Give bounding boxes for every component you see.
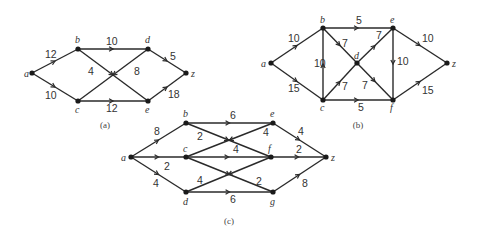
node-label: e: [270, 108, 275, 119]
node-a-z: [183, 70, 188, 75]
edge-weight-label: 10: [314, 57, 326, 69]
node-label: z: [330, 152, 335, 163]
edge-weight-label: 8: [302, 177, 308, 189]
edge-weight-label: 10: [288, 32, 300, 44]
node-a-b: [75, 46, 80, 51]
node-c-c: [183, 154, 188, 159]
edge-weight-label: 15: [288, 82, 300, 94]
node-b-d: [354, 60, 359, 65]
edge-weight-label: 10: [45, 89, 57, 101]
node-label: c: [183, 143, 188, 154]
node-b-b: [320, 25, 325, 30]
edge-weight-label: 2: [296, 143, 302, 155]
node-label: d: [183, 196, 189, 207]
node-c-z: [323, 154, 328, 159]
edge-weight-label: 8: [134, 65, 140, 77]
node-label: b: [75, 34, 80, 45]
node-label: a: [261, 58, 266, 69]
edge-weight-label: 4: [197, 174, 203, 186]
edge-weight-label: 5: [170, 50, 176, 62]
edge-weight-label: 5: [356, 14, 362, 26]
node-label: z: [190, 68, 195, 79]
node-b-a: [268, 60, 273, 65]
node-a-e: [145, 98, 150, 103]
node-b-z: [444, 60, 449, 65]
edge-weight-label: 4: [298, 125, 304, 137]
edge-weight-label: 6: [230, 193, 236, 205]
edge-weight-label: 15: [422, 84, 434, 96]
edge-weight-label: 10: [422, 32, 434, 44]
node-label: c: [75, 104, 80, 115]
edge-weight-label: 6: [230, 109, 236, 121]
figure-caption: (a): [100, 120, 110, 130]
node-a-a: [29, 70, 34, 75]
edge-weight-label: 18: [168, 88, 180, 100]
edge-weight-label: 5: [358, 101, 364, 113]
edge-weight-label: 7: [342, 80, 348, 92]
edge-weight-label: 4: [88, 65, 94, 77]
edge-weight-label: 7: [376, 29, 382, 41]
node-label: b: [183, 108, 188, 119]
edge-weight-label: 4: [263, 126, 269, 138]
node-a-c: [75, 98, 80, 103]
node-label: d: [354, 50, 360, 61]
edge-weight-label: 2: [256, 175, 262, 187]
node-label: e: [390, 14, 395, 25]
node-label: f: [268, 143, 272, 154]
edge-weight-label: 7: [362, 79, 368, 91]
edge-weight-label: 12: [106, 102, 118, 114]
edge-weight-label: 10: [397, 55, 409, 67]
node-b-e: [390, 25, 395, 30]
node-label: b: [320, 14, 325, 25]
edge-weight-label: 4: [153, 177, 159, 189]
edge-weight-label: 7: [342, 37, 348, 49]
edge-weight-label: 12: [45, 48, 57, 60]
node-label: g: [270, 196, 275, 207]
node-label: z: [451, 58, 456, 69]
edge-weight-label: 4: [233, 143, 239, 155]
edge-weight-label: 2: [164, 160, 170, 172]
node-label: c: [320, 102, 325, 113]
node-c-d: [183, 189, 188, 194]
labels-layer: 1210104128518abdcez(a)101557107775101015…: [24, 14, 456, 226]
figure-caption: (c): [224, 216, 234, 226]
edges-layer: [32, 26, 447, 194]
node-c-b: [183, 120, 188, 125]
node-a-d: [145, 46, 150, 51]
node-label: e: [145, 104, 150, 115]
node-c-a: [128, 154, 133, 159]
node-label: a: [121, 152, 126, 163]
edge-weight-label: 2: [197, 130, 203, 142]
node-c-e: [270, 120, 275, 125]
edge-weight-label: 8: [154, 125, 160, 137]
node-label: f: [390, 102, 394, 113]
figure-caption: (b): [353, 120, 364, 130]
network-flow-diagram: 1210104128518abdcez(a)101557107775101015…: [0, 0, 479, 232]
node-c-f: [268, 154, 273, 159]
node-label: a: [24, 68, 29, 79]
node-label: d: [145, 34, 151, 45]
edge-weight-label: 10: [106, 35, 118, 47]
node-c-g: [270, 189, 275, 194]
